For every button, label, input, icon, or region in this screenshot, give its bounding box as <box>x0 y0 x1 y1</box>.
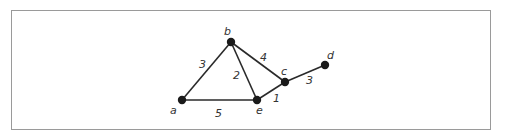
edge-e-c <box>257 82 285 100</box>
node-b <box>227 38 235 46</box>
node-a <box>178 96 186 104</box>
node-d <box>321 61 329 69</box>
edge-weight-b-e: 2 <box>233 69 240 82</box>
edge-weight-b-c: 4 <box>260 51 267 64</box>
node-c <box>281 78 289 86</box>
nodes-group <box>178 38 329 104</box>
node-e <box>253 96 261 104</box>
node-label-a: a <box>170 104 177 117</box>
node-label-b: b <box>224 25 231 38</box>
edge-c-d <box>285 65 325 82</box>
edge-weight-e-c: 1 <box>273 92 280 105</box>
edge-weight-c-d: 3 <box>306 74 313 87</box>
node-label-c: c <box>281 65 287 78</box>
node-label-e: e <box>256 104 263 117</box>
edges-group <box>182 42 325 100</box>
edge-a-b <box>182 42 231 100</box>
graph-diagram: 352413 abcde <box>0 0 505 137</box>
edge-weight-a-b: 3 <box>199 58 206 71</box>
edge-weight-a-e: 5 <box>215 107 222 120</box>
node-label-d: d <box>327 49 335 62</box>
